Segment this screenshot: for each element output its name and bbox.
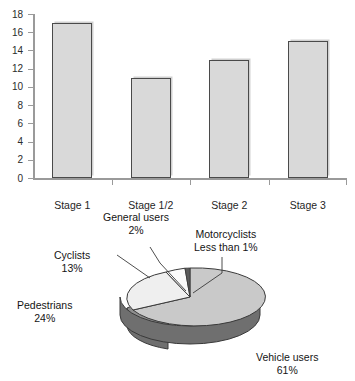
pie-label-vehicle-users-name: Vehicle users: [256, 351, 318, 363]
pie-label-vehicle-users-value: 61%: [256, 364, 318, 377]
pie-label-pedestrians-value: 24%: [17, 312, 72, 325]
pie-label-motorcyclists-name: Motorcyclists: [195, 228, 256, 240]
y-axis-tick-label: 6: [17, 119, 23, 129]
pie-label-cyclists-name: Cyclists: [54, 249, 90, 261]
x-axis-tick: [112, 180, 113, 185]
bar-column: [33, 14, 112, 178]
bar-stage-2[interactable]: [209, 60, 249, 178]
pie-label-general-users-name: General users: [103, 211, 169, 223]
y-axis-tick-label: 14: [12, 46, 23, 56]
pie-label-general-users: General users 2%: [103, 211, 169, 237]
pie-chart: General users 2% Motorcyclists Less than…: [0, 205, 355, 381]
pie-label-cyclists: Cyclists 13%: [54, 249, 90, 275]
bar-column: [269, 14, 348, 178]
bar-column: [190, 14, 269, 178]
y-axis-tick-label: 18: [12, 10, 23, 20]
y-axis-tick-label: 8: [17, 101, 23, 111]
x-axis-tick: [346, 180, 347, 185]
y-axis-tick-label: 2: [17, 155, 23, 165]
pie-label-general-users-value: 2%: [103, 224, 169, 237]
bar-stage-3[interactable]: [288, 41, 328, 178]
pie-label-vehicle-users: Vehicle users 61%: [256, 351, 318, 377]
bar-chart-plot-area: 18 16 14 12 10 8 6 4 2 0: [33, 14, 347, 180]
pie-label-pedestrians-name: Pedestrians: [17, 299, 72, 311]
pie-label-cyclists-value: 13%: [54, 262, 90, 275]
pie-label-motorcyclists: Motorcyclists Less than 1%: [194, 228, 258, 254]
pie-label-pedestrians: Pedestrians 24%: [17, 299, 72, 325]
y-axis-tick-label: 10: [12, 82, 23, 92]
bar-stage-1[interactable]: [52, 23, 92, 178]
pie-label-motorcyclists-value: Less than 1%: [194, 241, 258, 254]
y-axis-tick: 0: [28, 178, 33, 179]
x-axis-tick: [190, 180, 191, 185]
leader-line-cyclists: [117, 255, 150, 278]
y-axis-tick-label: 12: [12, 64, 23, 74]
bar-chart: 18 16 14 12 10 8 6 4 2 0: [0, 0, 355, 205]
bar-column: [112, 14, 191, 178]
y-axis-tick-label: 0: [17, 174, 23, 184]
y-axis-tick-label: 16: [12, 28, 23, 38]
bar-stage-1-2[interactable]: [131, 78, 171, 178]
x-axis-tick: [269, 180, 270, 185]
y-axis-tick-label: 4: [17, 137, 23, 147]
